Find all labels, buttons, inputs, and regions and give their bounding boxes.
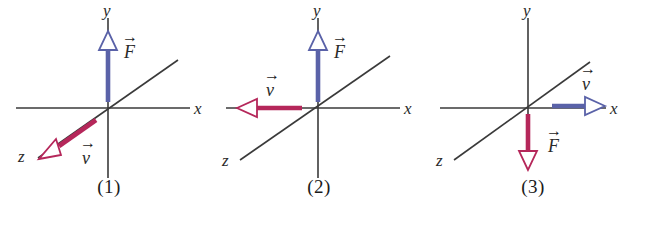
force-vector-arrow <box>309 31 327 102</box>
vector-diagram-figure: x y z → F → v (1) <box>0 0 649 228</box>
velocity-vector-head <box>39 139 61 159</box>
panel-2-caption: (2) <box>214 176 424 198</box>
velocity-vector-head <box>585 97 605 115</box>
force-label: F <box>333 42 346 62</box>
force-vector-head <box>519 151 537 170</box>
force-vector-head <box>309 31 327 50</box>
velocity-label: v <box>582 74 590 94</box>
velocity-vector-arrow <box>552 97 605 115</box>
force-vector-head <box>99 31 117 50</box>
velocity-vector-arrow <box>237 99 302 117</box>
velocity-vector-head <box>237 99 257 117</box>
panel-1-canvas: x y z → F → v <box>4 0 214 195</box>
panel-2-canvas: x y z → F → v <box>214 0 424 195</box>
x-axis-label: x <box>403 99 412 118</box>
x-axis-label: x <box>609 99 618 118</box>
panel-3-canvas: x y z → v → F <box>428 0 638 195</box>
force-label: F <box>123 42 136 62</box>
y-axis-label: y <box>521 1 531 20</box>
z-axis-label: z <box>435 151 443 170</box>
diagram-panel-1: x y z → F → v (1) <box>4 0 214 228</box>
panel-3-caption: (3) <box>428 176 638 198</box>
diagram-panel-3: x y z → v → F (3) <box>428 0 638 228</box>
panel-1-caption: (1) <box>4 176 214 198</box>
diagram-panel-2: x y z → F → v (2) <box>214 0 424 228</box>
z-axis-label: z <box>17 147 25 166</box>
z-axis-line <box>454 62 590 160</box>
x-axis-label: x <box>193 99 202 118</box>
velocity-label: v <box>82 148 90 168</box>
force-vector-arrow <box>99 31 117 102</box>
y-axis-label: y <box>101 1 111 20</box>
z-axis-label: z <box>221 151 229 170</box>
velocity-label: v <box>266 80 274 100</box>
force-vector-arrow <box>519 114 537 170</box>
force-label: F <box>547 136 560 156</box>
y-axis-label: y <box>311 1 321 20</box>
